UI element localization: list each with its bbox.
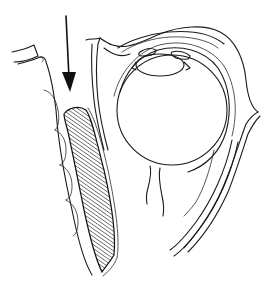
orbital-wall xyxy=(170,112,260,256)
optic-nerve xyxy=(146,166,163,216)
globe xyxy=(114,43,235,172)
arrow-down-icon xyxy=(62,16,76,92)
orbital-septum xyxy=(86,27,258,150)
hatched-region xyxy=(64,107,118,276)
diagram-canvas xyxy=(0,0,267,286)
cornea xyxy=(118,32,224,53)
orbit-diagram xyxy=(0,0,267,286)
